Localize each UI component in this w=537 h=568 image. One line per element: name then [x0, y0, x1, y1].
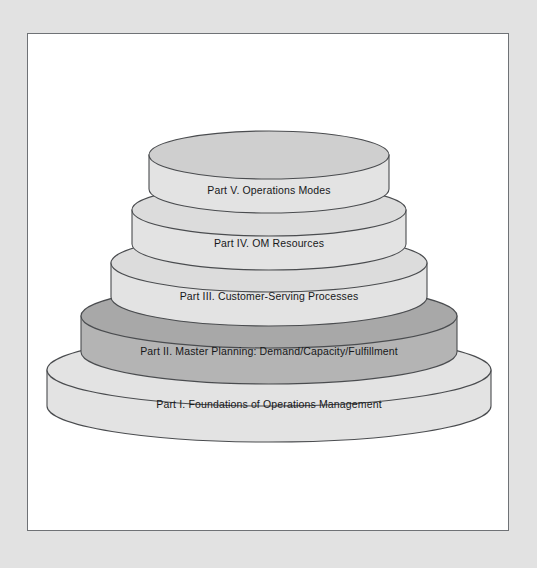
tier-ii-label-text: Part II. Master Planning: Demand/Capacit…: [140, 346, 398, 357]
tier-iii-label-text: Part III. Customer-Serving Processes: [180, 291, 359, 302]
cylinder-stack-svg: [28, 34, 510, 532]
page-root: Part V. Operations Modes Part IV. OM Res…: [0, 0, 537, 568]
tier-iv-label-text: Part IV. OM Resources: [214, 238, 324, 249]
figure-frame: Part V. Operations Modes Part IV. OM Res…: [27, 33, 509, 531]
tier-iii-label: Part III. Customer-Serving Processes: [28, 291, 510, 302]
cylinder-stack-diagram: Part V. Operations Modes Part IV. OM Res…: [28, 34, 510, 532]
tier-v-label: Part V. Operations Modes: [28, 185, 510, 196]
tier-iv-label: Part IV. OM Resources: [28, 238, 510, 249]
cylinder-tier-v[interactable]: [149, 131, 389, 213]
tier-i-label: Part I. Foundations of Operations Manage…: [28, 399, 510, 410]
tier-v-label-text: Part V. Operations Modes: [207, 185, 330, 196]
tier-i-label-text: Part I. Foundations of Operations Manage…: [156, 399, 381, 410]
tier-ii-label: Part II. Master Planning: Demand/Capacit…: [28, 346, 510, 357]
tier-v-top-surface: [149, 131, 389, 179]
